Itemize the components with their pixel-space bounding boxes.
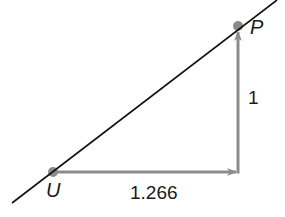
point-u-label: U xyxy=(46,179,61,201)
rise-label: 1 xyxy=(248,87,259,108)
point-p-label: P xyxy=(250,16,264,38)
run-label: 1.266 xyxy=(130,182,178,203)
slope-diagram: U P 1.266 1 xyxy=(0,0,285,217)
